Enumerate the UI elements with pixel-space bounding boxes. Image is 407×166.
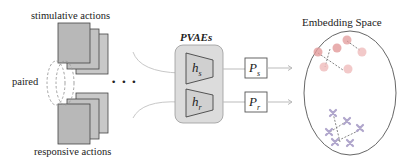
connector-top xyxy=(133,52,180,73)
connector-bottom xyxy=(133,102,180,118)
encoder-s-label: hs xyxy=(192,60,202,78)
stimulative-action-stack xyxy=(58,23,108,74)
ellipsis-indicator: • • • xyxy=(111,77,138,87)
pvaes-title: PVAEs xyxy=(180,31,212,43)
responsive-actions-label: responsive actions xyxy=(34,146,111,157)
embedding-space-title: Embedding Space xyxy=(302,16,382,28)
responsive-action-stack xyxy=(58,93,108,144)
projection-s-label: Ps xyxy=(249,60,260,78)
encoder-r-label: hr xyxy=(192,94,202,112)
stimulative-actions-label: stimulative actions xyxy=(31,10,110,21)
paired-label: paired xyxy=(12,76,38,87)
projection-r-label: Pr xyxy=(249,94,260,112)
